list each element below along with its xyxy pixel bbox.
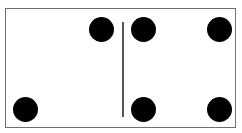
right-pip-4 [207, 97, 232, 122]
left-pip-2 [13, 97, 38, 122]
right-pip-1 [131, 17, 156, 42]
right-pip-2 [207, 17, 232, 42]
domino-tile [5, 8, 236, 128]
domino-divider [122, 22, 124, 117]
left-pip-1 [89, 17, 114, 42]
right-pip-3 [131, 97, 156, 122]
